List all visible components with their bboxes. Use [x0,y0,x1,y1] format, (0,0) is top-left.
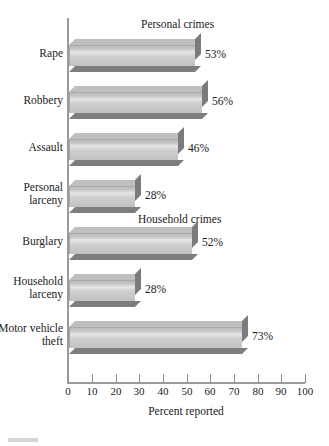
bar-motor-vehicle-theft [69,327,242,348]
x-axis-tick [234,374,235,383]
x-axis-tick [258,374,259,383]
bar-front-face [69,139,178,160]
bar-side-face [135,174,141,201]
x-axis-tick-label: 100 [290,385,320,397]
category-label-burglary: Burglary [0,235,63,248]
bar-bottom-face [69,348,248,354]
section-header-household-crimes: Household crimes [138,213,221,225]
bar-value-assault: 46% [188,142,209,154]
category-label-rape: Rape [0,47,63,60]
x-axis-line [67,382,305,384]
bar-value-personal-larceny: 28% [145,189,166,201]
x-axis-tick [163,374,164,383]
bar-value-motor-vehicle-theft: 73% [252,330,273,342]
bar-value-rape: 53% [205,48,226,60]
bar-bottom-face [69,160,184,166]
bar-bottom-face [69,66,201,72]
bar-rape [69,45,195,66]
bar-bottom-face [69,254,198,260]
bar-bottom-face [69,113,208,119]
category-label-assault: Assault [0,141,63,154]
chart-figure: Personal crimes Household crimes 0 10 20… [0,0,329,446]
section-header-personal-crimes: Personal crimes [141,18,214,30]
bar-value-burglary: 52% [202,236,223,248]
bar-value-robbery: 56% [212,95,233,107]
bar-front-face [69,186,135,207]
bar-side-face [178,127,184,154]
bar-side-face [195,33,201,60]
x-axis-tick [92,374,93,383]
bar-burglary [69,233,192,254]
bar-bottom-face [69,301,141,307]
bar-value-household-larceny: 28% [145,283,166,295]
bar-front-face [69,92,202,113]
x-axis-tick [116,374,117,383]
x-axis-tick [281,374,282,383]
bar-robbery [69,92,202,113]
x-axis-title: Percent reported [67,405,305,417]
bar-side-face [192,221,198,248]
bar-assault [69,139,178,160]
page-footer-marker [8,438,38,442]
category-label-household-larceny: Household larceny [0,275,63,300]
x-axis-tick [139,374,140,383]
category-label-robbery: Robbery [0,94,63,107]
category-label-personal-larceny: Personal larceny [0,181,63,206]
x-axis-tick [68,374,69,383]
bar-household-larceny [69,280,135,301]
bar-front-face [69,280,135,301]
bar-personal-larceny [69,186,135,207]
bar-front-face [69,233,192,254]
bar-front-face [69,45,195,66]
bar-side-face [202,80,208,107]
bar-side-face [242,315,248,342]
x-axis-tick [210,374,211,383]
x-axis-tick [187,374,188,383]
category-label-motor-vehicle-theft: Motor vehicle theft [0,322,63,347]
bar-bottom-face [69,207,141,213]
bar-side-face [135,268,141,295]
bar-front-face [69,327,242,348]
x-axis-tick [305,374,306,383]
